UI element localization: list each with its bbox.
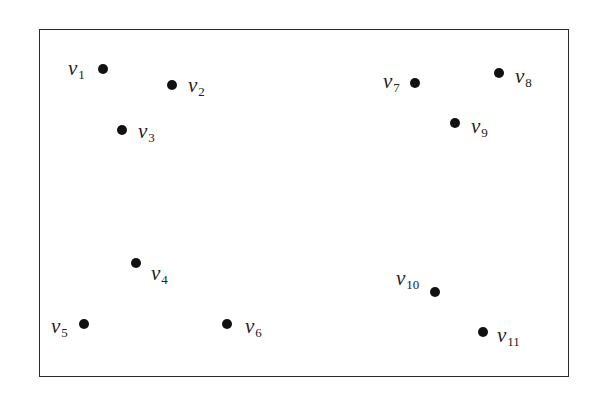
vertex-label-name: v bbox=[471, 114, 480, 138]
vertex-label-name: v bbox=[151, 261, 160, 285]
vertex-label-name: v bbox=[68, 56, 77, 80]
vertex-v4-dot bbox=[131, 258, 141, 268]
vertex-label-subscript: 5 bbox=[61, 325, 68, 340]
vertex-label-name: v bbox=[396, 266, 405, 290]
vertex-label-name: v bbox=[515, 64, 524, 88]
vertex-v8-label: v8 bbox=[515, 66, 532, 89]
vertex-v8-dot bbox=[494, 68, 504, 78]
vertex-v5-label: v5 bbox=[51, 316, 68, 339]
vertex-v2-label: v2 bbox=[188, 75, 205, 98]
vertex-v3-label: v3 bbox=[138, 121, 155, 144]
vertex-v6-dot bbox=[222, 319, 232, 329]
diagram-frame bbox=[39, 29, 569, 377]
vertex-label-subscript: 3 bbox=[148, 130, 155, 145]
vertex-label-subscript: 9 bbox=[481, 125, 488, 140]
vertex-label-name: v bbox=[497, 323, 506, 347]
vertex-v9-label: v9 bbox=[471, 116, 488, 139]
vertex-label-subscript: 10 bbox=[406, 277, 419, 292]
vertex-v6-label: v6 bbox=[245, 316, 262, 339]
vertex-label-name: v bbox=[383, 69, 392, 93]
vertex-v5-dot bbox=[79, 319, 89, 329]
vertex-v7-label: v7 bbox=[383, 71, 400, 94]
vertex-v7-dot bbox=[410, 78, 420, 88]
vertex-label-subscript: 1 bbox=[78, 67, 85, 82]
vertex-label-subscript: 4 bbox=[161, 272, 168, 287]
vertex-v11-label: v11 bbox=[497, 325, 520, 348]
vertex-label-name: v bbox=[138, 119, 147, 143]
vertex-label-name: v bbox=[51, 314, 60, 338]
vertex-v4-label: v4 bbox=[151, 263, 168, 286]
vertex-label-subscript: 6 bbox=[255, 325, 262, 340]
vertex-label-subscript: 8 bbox=[525, 75, 532, 90]
diagram-canvas: v1v2v3v4v5v6v7v8v9v10v11 bbox=[0, 0, 602, 401]
vertex-label-subscript: 11 bbox=[507, 334, 520, 349]
vertex-v11-dot bbox=[478, 327, 488, 337]
vertex-v1-dot bbox=[98, 64, 108, 74]
vertex-v10-dot bbox=[430, 287, 440, 297]
vertex-label-name: v bbox=[188, 73, 197, 97]
vertex-label-name: v bbox=[245, 314, 254, 338]
vertex-v3-dot bbox=[117, 125, 127, 135]
vertex-label-subscript: 2 bbox=[198, 84, 205, 99]
vertex-v2-dot bbox=[167, 80, 177, 90]
vertex-v10-label: v10 bbox=[396, 268, 419, 291]
vertex-label-subscript: 7 bbox=[393, 80, 400, 95]
vertex-v1-label: v1 bbox=[68, 58, 85, 81]
vertex-v9-dot bbox=[450, 118, 460, 128]
